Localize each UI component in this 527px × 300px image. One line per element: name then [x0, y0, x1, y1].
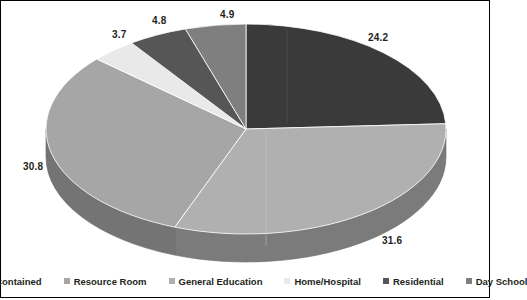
- data-label-general-education: 31.6: [382, 235, 402, 246]
- legend-swatch-icon: [466, 278, 472, 284]
- legend-item[interactable]: General Education: [169, 276, 263, 287]
- legend-item[interactable]: Home/Hospital: [284, 276, 361, 287]
- pie-chart-svg: [1, 1, 491, 265]
- legend-swatch-icon: [284, 278, 290, 284]
- data-label-resource-room: 30.8: [23, 161, 43, 172]
- chart-legend: Self-ContainedResource RoomGeneral Educa…: [1, 265, 491, 297]
- legend-item[interactable]: Day School: [466, 276, 527, 287]
- pie-slice: [246, 24, 446, 129]
- data-label-residential: 4.8: [152, 15, 167, 26]
- legend-item-label: Self-Contained: [0, 276, 42, 287]
- legend-item[interactable]: Residential: [383, 276, 444, 287]
- legend-swatch-icon: [64, 278, 70, 284]
- legend-item[interactable]: Self-Contained: [0, 276, 42, 287]
- data-label-home-hospital: 3.7: [112, 29, 127, 40]
- data-label-day-school: 4.9: [220, 9, 235, 20]
- pie-top-faces: [46, 24, 446, 234]
- chart-frame: 24.2 31.6 30.8 3.7 4.8 4.9 Self-Containe…: [0, 0, 490, 298]
- data-label-self-contained: 24.2: [368, 32, 388, 43]
- pie-chart-area: 24.2 31.6 30.8 3.7 4.8 4.9: [1, 1, 491, 265]
- legend-swatch-icon: [169, 278, 175, 284]
- legend-item-label: Resource Room: [74, 276, 147, 287]
- legend-swatch-icon: [383, 278, 389, 284]
- legend-item[interactable]: Resource Room: [64, 276, 147, 287]
- legend-item-label: Day School: [476, 276, 527, 287]
- legend-item-label: Home/Hospital: [294, 276, 361, 287]
- legend-item-label: Residential: [393, 276, 444, 287]
- legend-item-label: General Education: [179, 276, 263, 287]
